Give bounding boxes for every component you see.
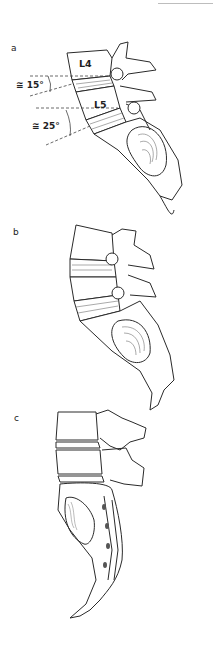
vertebra-label-l4: L4 [79,58,92,69]
angle-label-15: ≅ 15° [16,80,44,90]
panel-b-lumbosacral-illustration [0,215,213,425]
vertebra-label-l5: L5 [94,99,107,110]
panel-c-lumbosacral-illustration [0,410,213,647]
angle-label-25: ≅ 25° [32,121,60,131]
